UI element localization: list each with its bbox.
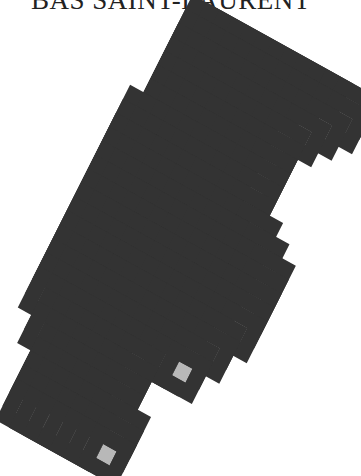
map-title: BAS SAINT-LAURENT bbox=[31, 0, 311, 16]
